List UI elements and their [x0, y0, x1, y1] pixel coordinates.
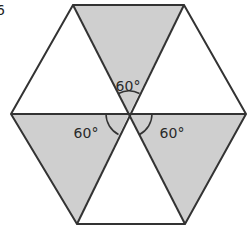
angle-label-bottom-left: 60°	[74, 125, 99, 141]
triangle-top-shaded	[73, 5, 184, 114]
figure-number-label: 6	[0, 2, 5, 18]
triangle-bottom-left-shaded	[11, 114, 129, 224]
triangle-bottom-right-shaded	[129, 114, 246, 224]
angle-label-top: 60°	[116, 78, 141, 94]
hexagon-diagram: 6 60° 60° 60°	[0, 0, 252, 231]
angle-label-bottom-right: 60°	[160, 125, 185, 141]
